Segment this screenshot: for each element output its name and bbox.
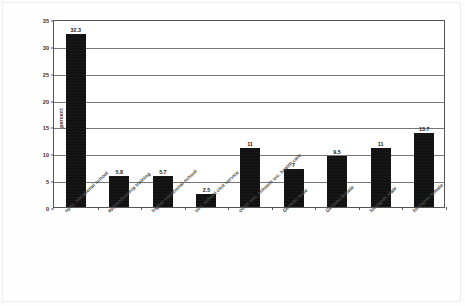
bar-value-label: 13.7	[419, 126, 430, 132]
y-tick-label: 30	[43, 45, 49, 51]
y-tick-mark	[51, 182, 54, 183]
bar	[66, 34, 86, 207]
y-tick-mark	[51, 128, 54, 129]
y-tick-label: 5	[46, 179, 49, 185]
bar-value-label: 11	[378, 141, 384, 147]
y-axis-title: percent	[58, 73, 64, 163]
y-tick-label: 25	[43, 72, 49, 78]
bar-chart-figure: 05101520253035 32.35.85.72.51179.51113.7…	[0, 0, 465, 306]
y-tick-label: 15	[43, 125, 49, 131]
bar-value-label: 32.3	[71, 27, 82, 33]
bar-value-label: 2.5	[203, 187, 211, 193]
x-axis-labels: spec. vocational schoolapprenticeship tr…	[53, 209, 445, 301]
y-tick-label: 35	[43, 18, 49, 24]
plot-area: 05101520253035 32.35.85.72.51179.51113.7…	[53, 20, 445, 208]
y-tick-mark	[51, 47, 54, 48]
bar-value-label: 5.8	[116, 169, 124, 175]
y-tick-label: 10	[43, 152, 49, 158]
gridline	[54, 48, 444, 49]
x-tick-mark	[446, 207, 447, 210]
y-tick-mark	[51, 21, 54, 22]
bar-value-label: 11	[247, 141, 253, 147]
y-tick-mark	[51, 101, 54, 102]
y-tick-label: 0	[46, 206, 49, 212]
gridline	[54, 128, 444, 129]
gridline	[54, 102, 444, 103]
y-tick-mark	[51, 155, 54, 156]
bar-value-label: 9.5	[333, 149, 341, 155]
bar-value-label: 5.7	[159, 169, 167, 175]
y-tick-label: 20	[43, 99, 49, 105]
gridline	[54, 75, 444, 76]
y-tick-mark	[51, 74, 54, 75]
